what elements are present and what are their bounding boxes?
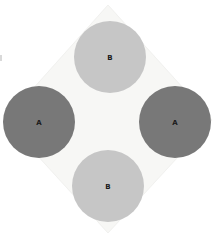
circle-group-top[interactable]: B [74,21,146,93]
circle-group-left[interactable]: A [3,86,75,158]
circle-group-right[interactable]: A [139,86,211,158]
circle-bottom-label: B [105,183,110,191]
circle-right-label: A [172,119,178,127]
circle-group-bottom[interactable]: B [72,150,144,222]
figure-canvas: B A B A [0,0,218,239]
figure-svg: B A B A [0,0,218,239]
left-edge-mark [0,55,2,61]
circle-left-label: A [36,119,42,127]
circle-top-label: B [107,54,112,62]
